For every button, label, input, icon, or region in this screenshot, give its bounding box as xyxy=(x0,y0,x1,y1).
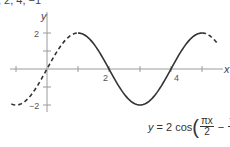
x-axis-label: x xyxy=(223,63,230,75)
curve-dashed-right xyxy=(202,33,218,44)
x-tick-label-4: 4 xyxy=(174,73,179,83)
y-tick-label-neg2: −2 xyxy=(29,101,39,111)
graph-figure: , 2, 4, −1 2 4 2 −2 y x xyxy=(0,0,230,147)
fraction-1-denominator: 2 xyxy=(204,127,210,137)
equation-lhs: y xyxy=(148,121,154,133)
equation-eq: = 2 cos xyxy=(157,121,193,133)
equation-minus: − xyxy=(218,121,224,133)
x-tick-label-2: 2 xyxy=(103,73,108,83)
equation-lparen: ( xyxy=(192,117,199,137)
equation-fraction-1: πx 2 xyxy=(200,116,214,137)
equation-label: y = 2 cos ( πx 2 − π 2 ) xyxy=(148,116,230,137)
y-tick-label-2: 2 xyxy=(34,29,39,39)
equation-fraction-2: π 2 xyxy=(228,116,230,137)
